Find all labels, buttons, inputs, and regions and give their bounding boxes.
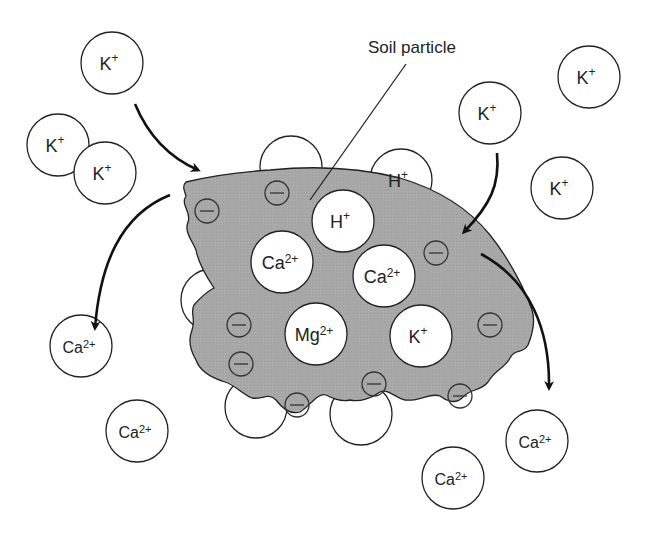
arrow-in-left (135, 104, 198, 170)
soil-particle-label: Soil particle (368, 38, 456, 58)
diagram-canvas: K+ K+ K+ K+ K+ K+ H+ H+ Ca2+ Ca2+ Mg2+ K… (0, 0, 648, 538)
arrow-out-left (95, 195, 170, 328)
